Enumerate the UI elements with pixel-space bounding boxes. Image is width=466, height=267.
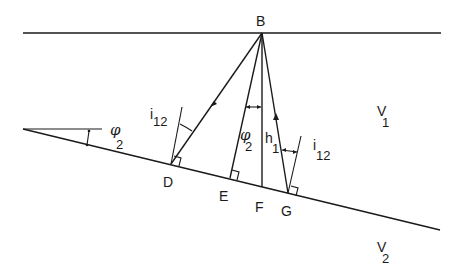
angle-arc-i12-left (180, 124, 192, 131)
dip-angle-arc (87, 131, 89, 145)
ray-gb-arrow-icon (273, 113, 279, 120)
label-d: D (163, 174, 173, 190)
label-f: F (255, 199, 264, 215)
label-b: B (256, 13, 265, 29)
label-g: G (281, 203, 292, 219)
label-h1-sub: 1 (272, 141, 279, 156)
ray-bd-arrow-icon (210, 101, 217, 107)
label-i12-right-sub: 12 (316, 148, 330, 163)
dip-angle-arrow-top (88, 130, 91, 133)
label-i12-left-sub: 12 (153, 114, 167, 129)
label-phi2-center-sub: 2 (245, 139, 252, 154)
arrowhead-i12-right-icon (293, 150, 297, 154)
label-v1-sub: 1 (382, 115, 389, 130)
arrowhead-right-icon (257, 105, 261, 109)
arrowhead-i12-left-icon (282, 148, 286, 152)
dipping-interface-line (23, 129, 440, 230)
refraction-diagram: B D E F G i 12 φ 2 φ 2 h 1 i 12 V 1 V 2 (0, 0, 466, 267)
normal-at-g (288, 136, 301, 193)
label-e: E (219, 188, 228, 204)
right-angle-e (232, 170, 239, 180)
ray-gb (262, 33, 288, 193)
label-phi2-left-sub: 2 (116, 137, 123, 152)
label-v2-sub: 2 (382, 251, 389, 266)
dip-angle-arrow-bottom (86, 144, 89, 147)
